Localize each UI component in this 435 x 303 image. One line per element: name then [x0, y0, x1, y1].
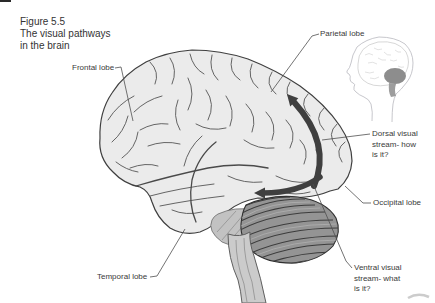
label-frontal-lobe: Frontal lobe — [72, 63, 114, 74]
label-occipital-lobe: Occipital lobe — [373, 198, 421, 209]
face-profile-line — [347, 47, 373, 121]
label-line: stream- what — [354, 274, 402, 285]
temporal-leader-line — [150, 229, 185, 277]
label-line: is it? — [372, 150, 418, 161]
scan-artifact-bottom-right — [408, 295, 429, 298]
inset-highlighted-occipital-region — [384, 68, 406, 84]
figure-title: Figure 5.5 The visual pathways in the br… — [20, 16, 111, 52]
figure-title-line: in the brain — [20, 40, 111, 52]
label-line: is it? — [354, 284, 402, 295]
occipital-leader-line — [345, 186, 371, 203]
head-profile-inset — [347, 37, 413, 122]
label-dorsal-visual-stream: Dorsal visual stream- how is it? — [372, 129, 418, 161]
label-line: Ventral visual — [354, 263, 402, 274]
figure-title-line: The visual pathways — [20, 28, 111, 40]
label-ventral-visual-stream: Ventral visual stream- what is it? — [354, 263, 402, 295]
inset-brainstem — [389, 83, 396, 97]
figure-5-5-visual-pathways-diagram: Figure 5.5 The visual pathways in the br… — [0, 0, 435, 303]
label-line: Dorsal visual — [372, 129, 418, 140]
label-parietal-lobe: Parietal lobe — [320, 29, 364, 40]
scan-artifact-top-left — [0, 0, 11, 2]
label-line: stream- how — [372, 140, 418, 151]
label-temporal-lobe: Temporal lobe — [97, 272, 147, 283]
figure-title-line: Figure 5.5 — [20, 16, 111, 28]
